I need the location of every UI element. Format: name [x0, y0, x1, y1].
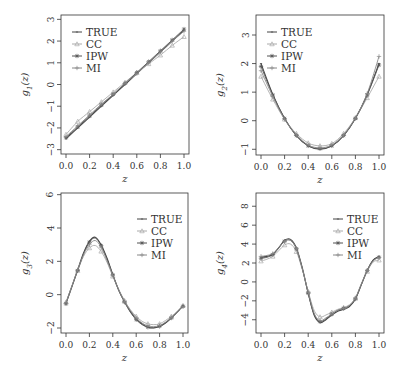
y-tick-label: −2 [46, 121, 56, 134]
x-tick-label: 0.8 [153, 161, 168, 171]
x-axis-title: z [316, 174, 323, 185]
data-point-mi [306, 290, 310, 294]
series-group [259, 239, 381, 324]
y-tick-label: 1 [241, 89, 251, 95]
x-axis-title: z [121, 352, 128, 363]
x-tick-label: 0.2 [82, 340, 96, 350]
series-line-mi [261, 56, 379, 147]
x-tick-label: 0.4 [301, 340, 316, 350]
x-tick-label: 0.6 [130, 161, 145, 171]
series-group [259, 54, 381, 151]
legend-marker-mi [75, 66, 79, 70]
y-tick-label: 4 [46, 225, 56, 231]
legend-label-true: TRUE [86, 26, 117, 38]
panel-4: 0.00.20.40.60.81.0z−4−202468g4(z)TRUECCI… [214, 193, 386, 363]
x-axis-title: z [121, 173, 128, 184]
legend: TRUECCIPWMI [72, 26, 117, 74]
x-tick-label: 0.0 [254, 162, 269, 172]
y-axis-title: g3(z) [19, 251, 34, 275]
y-tick-label: −4 [241, 313, 251, 327]
x-tick-label: 0.8 [152, 340, 167, 350]
x-tick-label: 0.8 [348, 340, 363, 350]
legend-label-mi: MI [281, 62, 296, 74]
legend-label-mi: MI [151, 249, 166, 261]
y-axis-title: g1(z) [19, 72, 34, 96]
data-point-ipw [377, 63, 381, 67]
plot-frame [256, 15, 384, 155]
legend-marker-mi [336, 253, 340, 257]
y-axis-title: g4(z) [214, 251, 229, 275]
legend: TRUECCIPWMI [137, 213, 182, 261]
x-tick-label: 0.6 [325, 340, 340, 350]
legend-marker-ipw [336, 241, 340, 245]
x-tick-label: 0.0 [254, 340, 269, 350]
y-tick-label: 6 [46, 192, 56, 198]
data-point-mi [64, 301, 68, 305]
legend-label-true: TRUE [281, 26, 312, 38]
y-tick-label: −1 [46, 100, 56, 113]
y-tick-label: 3 [241, 32, 251, 38]
x-tick-label: 1.0 [177, 161, 192, 171]
legend-marker-ipw [140, 241, 144, 245]
y-tick-label: 2 [46, 258, 56, 264]
x-tick-label: 1.0 [372, 340, 387, 350]
x-axis-title: z [316, 352, 323, 363]
y-tick-label: 1 [46, 60, 56, 66]
series-line-cc [261, 76, 379, 145]
y-tick-label: 0 [241, 118, 251, 124]
x-tick-label: 1.0 [372, 162, 387, 172]
legend: TRUECCIPWMI [333, 213, 378, 261]
legend-label-mi: MI [86, 62, 101, 74]
y-axis-title: g2(z) [214, 73, 229, 97]
legend-marker-ipw [270, 54, 274, 58]
legend-label-cc: CC [281, 38, 297, 50]
x-tick-label: 0.2 [277, 162, 291, 172]
x-tick-label: 0.4 [301, 162, 316, 172]
y-tick-label: 0 [46, 292, 56, 298]
legend-label-true: TRUE [347, 213, 378, 225]
x-tick-label: 0.6 [325, 162, 340, 172]
y-tick-label: 0 [241, 279, 251, 285]
y-tick-label: 2 [46, 38, 56, 44]
legend-label-cc: CC [347, 225, 363, 237]
y-tick-label: −2 [46, 321, 56, 334]
y-tick-label: 2 [241, 260, 251, 266]
x-tick-label: 0.0 [59, 161, 74, 171]
legend-label-ipw: IPW [86, 50, 108, 62]
legend-label-cc: CC [151, 225, 167, 237]
x-tick-label: 0.2 [277, 340, 291, 350]
data-point-cc [182, 35, 186, 39]
legend-label-ipw: IPW [347, 237, 369, 249]
data-point-cc [377, 74, 381, 78]
x-tick-label: 0.2 [82, 161, 96, 171]
x-tick-label: 0.8 [348, 162, 363, 172]
data-point-ipw [259, 64, 263, 68]
series-group [64, 237, 185, 329]
legend: TRUECCIPWMI [267, 26, 312, 74]
figure-4-panel: 0.00.20.40.60.81.0z−3−2−10123g1(z)TRUECC… [0, 0, 402, 375]
panel-3: 0.00.20.40.60.81.0z−20246g3(z)TRUECCIPWM… [19, 192, 190, 363]
y-tick-label: 0 [46, 81, 56, 87]
legend-label-ipw: IPW [281, 50, 303, 62]
x-tick-label: 0.4 [106, 161, 121, 171]
panel-1: 0.00.20.40.60.81.0z−3−2−10123g1(z)TRUECC… [19, 15, 191, 184]
y-tick-label: 4 [241, 241, 251, 247]
x-tick-label: 0.0 [59, 340, 74, 350]
data-point-mi [377, 54, 381, 58]
y-tick-label: 2 [241, 61, 251, 67]
y-tick-label: −3 [46, 143, 56, 157]
y-tick-label: 6 [241, 222, 251, 228]
legend-marker-mi [270, 66, 274, 70]
y-tick-label: −1 [241, 143, 251, 156]
x-tick-label: 0.6 [129, 340, 144, 350]
legend-label-cc: CC [86, 38, 102, 50]
x-tick-label: 0.4 [106, 340, 121, 350]
panel-2: 0.00.20.40.60.81.0z−10123g2(z)TRUECCIPWM… [214, 15, 386, 185]
legend-label-true: TRUE [151, 213, 182, 225]
legend-label-ipw: IPW [151, 237, 173, 249]
legend-marker-mi [140, 253, 144, 257]
legend-marker-ipw [75, 54, 79, 58]
x-tick-label: 1.0 [176, 340, 191, 350]
y-tick-label: −2 [241, 294, 251, 307]
series-group [64, 27, 186, 140]
